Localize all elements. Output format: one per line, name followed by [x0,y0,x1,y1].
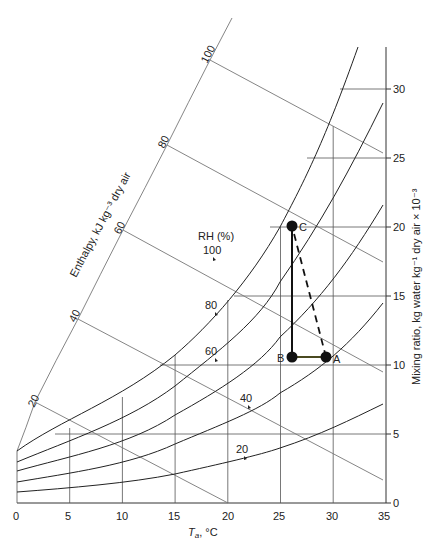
svg-text:5: 5 [65,510,71,522]
svg-text:25: 25 [393,152,405,164]
svg-text:0: 0 [13,510,19,522]
rh-80-curve [17,103,383,462]
svg-text:35: 35 [378,510,390,522]
rh-20-curve [17,404,383,492]
svg-text:100: 100 [203,244,221,256]
point-c [287,221,298,232]
svg-text:60: 60 [111,219,127,235]
y-axis-title: Mixing ratio, kg water kg⁻¹ dry air × 10… [410,188,422,385]
svg-text:15: 15 [168,510,180,522]
y-tick-labels: 0 5 10 15 20 25 30 [386,83,405,509]
svg-text:80: 80 [205,299,217,311]
svg-text:80: 80 [155,133,171,149]
svg-text:20: 20 [222,510,234,522]
svg-text:20: 20 [236,443,248,455]
svg-text:5: 5 [393,428,399,440]
svg-text:20: 20 [393,221,405,233]
svg-text:10: 10 [393,359,405,371]
x-axis-title: Ta, °C [188,526,218,540]
point-a [321,352,332,363]
svg-text:30: 30 [393,83,405,95]
enthalpy-tick-labels: 20 40 60 80 100 [25,43,217,409]
line-a-to-c [292,226,326,357]
svg-text:15: 15 [393,290,405,302]
point-c-label: C [299,221,307,233]
svg-text:40: 40 [240,392,252,404]
point-b-label: B [277,352,284,364]
rh-100-curve [17,47,358,451]
svg-text:30: 30 [326,510,338,522]
rh-60-curve [17,205,383,471]
rh-title: RH (%) [198,230,234,242]
svg-text:25: 25 [273,510,285,522]
svg-text:60: 60 [205,345,217,357]
point-b [287,352,298,363]
svg-text:100: 100 [198,43,217,65]
process-lines [292,226,326,357]
mixing-ratio-grid [55,89,386,434]
svg-text:40: 40 [66,307,82,323]
svg-text:10: 10 [116,510,128,522]
svg-text:0: 0 [393,497,399,509]
x-tick-labels: 0 5 10 15 20 25 30 35 [13,510,390,522]
psychrometric-chart: A B C 0 5 10 15 20 25 30 35 Ta, °C 0 5 1… [0,0,436,549]
svg-text:20: 20 [25,392,41,408]
point-a-label: A [333,353,341,365]
